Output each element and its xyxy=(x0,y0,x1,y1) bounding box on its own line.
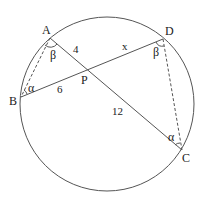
angle-arc-c xyxy=(175,143,180,145)
circle xyxy=(20,17,194,191)
angle-label-d: β xyxy=(153,45,159,59)
segment-label-bp: 6 xyxy=(57,83,63,95)
point-label-c: C xyxy=(182,151,190,165)
point-label-p: P xyxy=(81,73,88,87)
chord-diagram: A B C D P 4 x 6 12 β β α α xyxy=(0,0,206,200)
chord-bd xyxy=(21,39,163,97)
point-label-a: A xyxy=(42,23,51,37)
angle-label-b: α xyxy=(28,81,35,95)
segment-label-pd: x xyxy=(122,40,128,52)
chord-ac xyxy=(50,38,182,150)
angle-label-c: α xyxy=(168,130,175,144)
segment-label-ap: 4 xyxy=(73,43,79,55)
segment-label-pc: 12 xyxy=(112,105,123,117)
dashed-ab xyxy=(21,38,50,97)
point-label-b: B xyxy=(9,94,17,108)
angle-label-a: β xyxy=(50,48,56,62)
angle-arc-b xyxy=(24,90,27,94)
point-label-d: D xyxy=(165,24,174,38)
